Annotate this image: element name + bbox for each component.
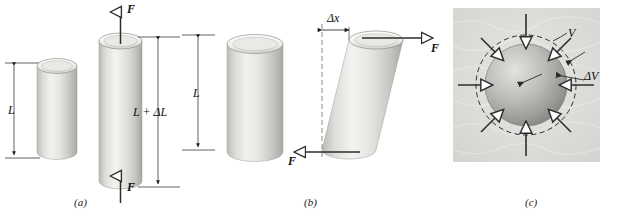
panel-caption-a: (a) [74,196,87,208]
panel-b-shearing-stress [227,24,432,162]
cylinder-sheared [322,31,403,159]
label-force-bottom-a: F [127,180,135,195]
label-stretched-length: L + ΔL [133,105,167,120]
label-force-bottom-b: F [288,154,296,169]
label-reference-length: L [193,86,200,101]
physics-figure-elastic-deformation [0,0,618,218]
sphere-compressed-volume [485,44,567,126]
panel-a-tensile-stress [5,12,215,203]
label-original-length-a: L [8,103,15,118]
label-volume-change: ΔV [584,69,598,84]
dimension-line-shear-offset [322,27,349,40]
label-force-top-b: F [431,41,439,56]
label-shear-offset: Δx [327,11,339,26]
panel-c-hydraulic-stress [453,8,600,162]
cylinder-unstressed [37,59,77,160]
cylinder-unsheared [227,35,283,162]
label-force-top-a: F [127,2,135,17]
label-volume: V [568,26,575,41]
panel-caption-b: (b) [304,196,317,208]
panel-caption-c: (c) [525,196,537,208]
